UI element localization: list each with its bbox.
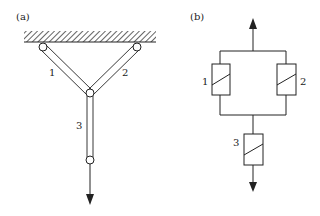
bar-2: [88, 45, 140, 96]
element-3-label: 3: [233, 137, 239, 148]
ceiling-hatch: [24, 31, 156, 42]
fixed-ceiling: [24, 31, 156, 42]
element-1: [212, 64, 230, 95]
element-1-label: 1: [202, 76, 208, 87]
element-3: [244, 134, 263, 165]
panel-b: (b): [190, 11, 306, 192]
bar-1-label: 1: [49, 67, 55, 78]
pin-joint-right: [133, 43, 141, 51]
bar-3: [87, 96, 93, 157]
diagram-canvas: (a) 1 2: [0, 0, 320, 216]
arrow-up-icon: [249, 18, 257, 51]
bar-2-label: 2: [122, 67, 128, 78]
panel-a: (a) 1 2: [16, 11, 156, 205]
element-2: [277, 64, 296, 95]
arrow-down-icon: [249, 165, 257, 192]
panel-b-label: (b): [190, 11, 204, 22]
load-arrow-down-icon: [86, 164, 94, 205]
bar-3-label: 3: [76, 120, 82, 131]
pin-joint-bottom: [86, 156, 94, 164]
pin-joint-left: [39, 43, 47, 51]
element-2-label: 2: [300, 76, 306, 87]
panel-a-label: (a): [16, 11, 30, 22]
pin-joint-center: [86, 89, 94, 97]
